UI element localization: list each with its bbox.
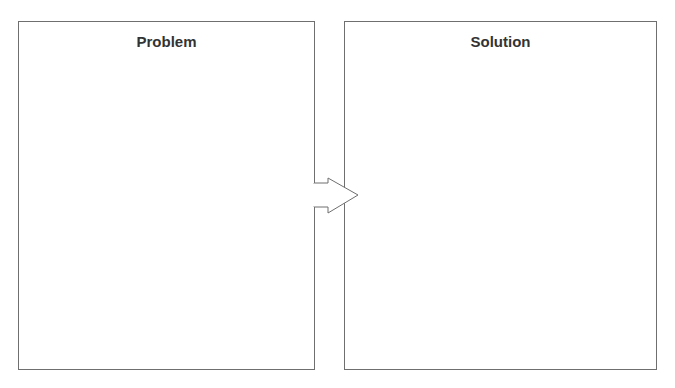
problem-title: Problem (19, 33, 314, 51)
solution-panel: Solution (344, 21, 657, 370)
problem-panel: Problem (18, 21, 315, 370)
solution-content-area[interactable] (355, 62, 646, 359)
right-arrow-icon (312, 170, 362, 220)
solution-title: Solution (345, 33, 656, 51)
problem-content-area[interactable] (29, 62, 304, 359)
